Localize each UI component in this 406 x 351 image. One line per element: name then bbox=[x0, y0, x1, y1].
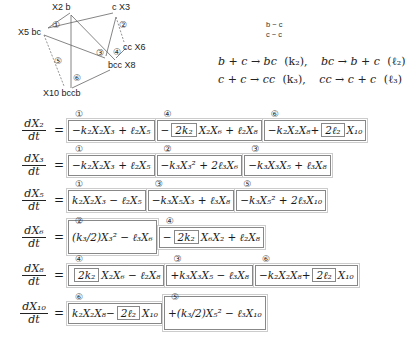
lhs-dx10: dX₁₀dt bbox=[17, 300, 51, 326]
lhs-dx8: dX₈dt bbox=[17, 262, 51, 288]
term-3: ③−k₃X₃X₅ + ℓ₃X₈ bbox=[244, 155, 330, 176]
lhs-dx3: dX₃dt bbox=[17, 152, 51, 178]
legend-bc: b − c bbox=[266, 20, 282, 30]
reaction-2: c + c → cc (k₃), cc → c + c (ℓ₃) bbox=[218, 71, 406, 89]
node-x3: c X3 bbox=[112, 2, 130, 12]
marker-1: ① bbox=[52, 20, 60, 30]
node-x10: X10 bccb bbox=[43, 88, 81, 98]
node-x2: X2 b bbox=[52, 2, 71, 12]
lhs-dx2: dX₂dt bbox=[17, 117, 51, 143]
equation-dx2: dX₂dt = ①−k₂X₂X₃ + ℓ₂X₅ ④−2k₂X₂X₆ + ℓ₂X₈… bbox=[17, 113, 368, 147]
term-1: ①−k₂X₂X₃ + ℓ₂X₅ bbox=[68, 120, 154, 141]
marker-6: ⑥ bbox=[73, 73, 81, 83]
term-2: ②−k₃X₃² + 2ℓ₃X₆ bbox=[157, 155, 243, 176]
term-3: ③−k₃X₅X₃ + ℓ₃X₈ bbox=[148, 190, 234, 211]
lhs-dx5: dX₅dt bbox=[17, 187, 51, 213]
marker-4: ④ bbox=[113, 47, 121, 57]
equation-dx5: dX₅dt = ①k₂X₂X₃ − ℓ₂X₅ ③−k₃X₅X₃ + ℓ₃X₈ ⑤… bbox=[17, 183, 328, 217]
term-2: ②(k₃/2)X₃² − ℓ₃X₆ bbox=[68, 220, 157, 254]
term-5: ⑤−k₃X₅² + 2ℓ₃X₁₀ bbox=[236, 190, 326, 211]
marker-5: ⑤ bbox=[54, 56, 62, 66]
term-3: ③+k₃X₃X₅ − ℓ₃X₈ bbox=[166, 265, 252, 286]
equation-dx8: dX₈dt = ④2k₂X₂X₆ − ℓ₂X₈ ③+k₃X₃X₅ − ℓ₃X₈ … bbox=[17, 258, 360, 292]
lhs-dx6: dX₆dt bbox=[17, 224, 51, 250]
term-4: ④−2k₂X₆X₂ + ℓ₂X₈ bbox=[159, 227, 264, 248]
term-6: ⑥k₂X₂X₈−2ℓ₂X₁₀ bbox=[68, 303, 162, 324]
term-6: ⑥−k₂X₂X₈+2ℓ₂X₁₀ bbox=[264, 120, 367, 141]
marker-2: ② bbox=[119, 20, 127, 30]
bond-legend: b − c c − c bbox=[266, 20, 282, 40]
equation-dx6: dX₆dt = ②(k₃/2)X₃² − ℓ₃X₆ ④−2k₂X₆X₂ + ℓ₂… bbox=[17, 220, 266, 254]
equation-dx10: dX₁₀dt = ⑥k₂X₂X₈−2ℓ₂X₁₀ ⑤+(k₃/2)X₅² − ℓ₃… bbox=[17, 296, 268, 330]
reaction-list: b + c → bc (k₂), bc → b + c (ℓ₂) c + c →… bbox=[218, 53, 406, 89]
term-6: ⑥−k₂X₂X₈+2ℓ₂X₁₀ bbox=[255, 265, 358, 286]
term-4: ④2k₂X₂X₆ − ℓ₂X₈ bbox=[68, 265, 164, 286]
node-x5: X5 bc bbox=[18, 27, 41, 37]
reaction-1: b + c → bc (k₂), bc → b + c (ℓ₂) bbox=[218, 53, 406, 71]
node-x6: cc X6 bbox=[123, 42, 146, 52]
equation-dx3: dX₃dt = ①−k₂X₂X₃ + ℓ₂X₅ ②−k₃X₃² + 2ℓ₃X₆ … bbox=[17, 148, 333, 182]
term-4: ④−2k₂X₂X₆ + ℓ₂X₈ bbox=[157, 120, 262, 141]
reaction-network-diagram: X2 b c X3 X5 bc cc X6 bcc X8 X10 bccb ① … bbox=[0, 0, 140, 100]
node-x8: bcc X8 bbox=[108, 60, 136, 70]
legend-cc: c − c bbox=[266, 30, 282, 40]
term-5: ⑤+(k₃/2)X₅² − ℓ₃X₁₀ bbox=[164, 296, 266, 330]
marker-3: ③ bbox=[96, 48, 104, 58]
term-1: ①−k₂X₂X₃ + ℓ₂X₅ bbox=[68, 155, 154, 176]
